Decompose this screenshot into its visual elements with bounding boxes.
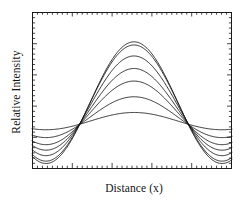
x-axis-label: Distance (x) xyxy=(105,182,163,195)
interference-plot: Distance (x) Relative Intensity xyxy=(0,0,252,202)
figure-background xyxy=(0,0,252,202)
y-axis-label: Relative Intensity xyxy=(10,50,23,133)
chart-figure: Distance (x) Relative Intensity xyxy=(0,0,252,202)
